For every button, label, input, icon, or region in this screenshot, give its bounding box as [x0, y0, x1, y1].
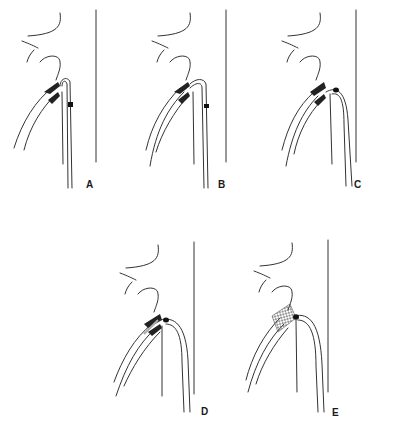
diagram-panel-b	[130, 0, 260, 195]
panel-label-d: D	[201, 406, 208, 417]
catheter-marker	[293, 314, 299, 320]
guide-catheter-outer	[294, 315, 324, 412]
guide-catheter-inner	[298, 320, 318, 412]
panel-label-b: B	[218, 179, 225, 190]
guide-catheter-inner	[166, 324, 184, 412]
panel-b: B	[130, 0, 260, 195]
panel-c: C	[260, 0, 393, 195]
catheter-marker	[163, 318, 169, 323]
guide-catheter-inner	[332, 94, 346, 186]
branch-line	[62, 92, 63, 164]
panel-a: A	[0, 0, 130, 195]
panel-label-c: C	[354, 179, 361, 190]
diagram-panel-d	[90, 220, 220, 428]
panel-d: D	[90, 220, 220, 428]
diagram-panel-c	[260, 0, 393, 195]
diagram-panel-e	[220, 220, 360, 428]
catheter-marker	[204, 104, 209, 108]
diagram-panel-a	[0, 0, 130, 195]
panel-label-e: E	[332, 407, 339, 418]
guide-catheter-inner	[190, 84, 204, 189]
catheter-marker	[68, 102, 73, 107]
panel-e: E	[220, 220, 360, 428]
panel-label-a: A	[86, 179, 93, 190]
catheter-marker	[333, 88, 339, 93]
stent-mesh	[272, 304, 296, 332]
guide-catheter-outer	[160, 319, 190, 412]
